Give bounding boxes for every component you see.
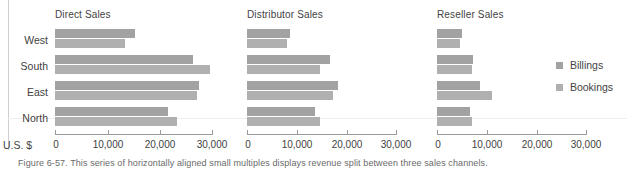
legend-swatch-billings-icon — [556, 62, 563, 69]
category-label-east: East — [0, 86, 48, 98]
bar-billings-north — [247, 107, 315, 116]
legend-swatch-bookings-icon — [556, 84, 563, 91]
bar-billings-north — [55, 107, 168, 116]
x-tick-label-20000: 20,000 — [522, 139, 553, 150]
x-tick-10000 — [297, 130, 298, 134]
plot-area-distributor-sales: 0 10,000 20,000 30,000 — [247, 28, 399, 134]
panel-title-reseller-sales: Reseller Sales — [437, 9, 504, 20]
category-label-south: South — [0, 60, 48, 72]
x-tick-label-20000: 20,000 — [332, 139, 363, 150]
bar-group-west — [55, 28, 215, 54]
legend-item-bookings[interactable]: Bookings — [556, 80, 613, 94]
x-tick-20000 — [537, 130, 538, 134]
x-tick-label-0: 0 — [245, 139, 251, 150]
bar-group-south — [247, 54, 399, 80]
x-tick-label-30000: 30,000 — [571, 139, 602, 150]
bar-bookings-east — [247, 91, 333, 100]
chart-legend: Billings Bookings — [556, 58, 613, 102]
x-tick-label-0: 0 — [53, 139, 59, 150]
bar-billings-west — [55, 29, 135, 38]
legend-item-billings[interactable]: Billings — [556, 58, 613, 72]
small-multiples-figure: West South East North U.S. $ Direct Sale… — [0, 0, 627, 150]
bar-group-north — [55, 106, 215, 132]
bar-bookings-west — [55, 39, 125, 48]
bar-billings-north — [437, 107, 470, 116]
bar-group-north — [247, 106, 399, 132]
bar-billings-east — [247, 81, 338, 90]
x-tick-20000 — [347, 130, 348, 134]
panel-title-distributor-sales: Distributor Sales — [247, 9, 323, 20]
bar-bookings-south — [55, 65, 210, 74]
bar-group-west — [437, 28, 589, 54]
bar-bookings-west — [247, 39, 287, 48]
bar-group-west — [247, 28, 399, 54]
bar-group-east — [247, 80, 399, 106]
x-tick-20000 — [160, 130, 161, 134]
legend-label-billings: Billings — [570, 59, 603, 71]
x-tick-label-30000: 30,000 — [197, 139, 228, 150]
bar-billings-west — [437, 29, 462, 38]
bar-billings-south — [55, 55, 193, 64]
bar-bookings-south — [437, 65, 472, 74]
bar-billings-west — [247, 29, 290, 38]
legend-label-bookings: Bookings — [570, 81, 613, 93]
bar-billings-south — [247, 55, 330, 64]
bar-bookings-east — [55, 91, 197, 100]
panel-title-direct-sales: Direct Sales — [55, 9, 111, 20]
x-tick-label-0: 0 — [435, 139, 441, 150]
bar-group-east — [55, 80, 215, 106]
bar-bookings-north — [247, 117, 320, 126]
x-tick-label-10000: 10,000 — [282, 139, 313, 150]
bar-bookings-north — [437, 117, 472, 126]
bar-bookings-north — [55, 117, 177, 126]
x-tick-10000 — [108, 130, 109, 134]
x-tick-label-10000: 10,000 — [93, 139, 124, 150]
panel-direct-sales: Direct Sales — [55, 0, 230, 150]
x-tick-label-20000: 20,000 — [145, 139, 176, 150]
bar-group-north — [437, 106, 589, 132]
category-label-west: West — [0, 34, 48, 46]
bar-bookings-west — [437, 39, 460, 48]
bar-group-south — [55, 54, 215, 80]
bar-billings-east — [437, 81, 480, 90]
figure-caption: Figure 6-57. This series of horizontally… — [18, 158, 618, 168]
panel-distributor-sales: Distributor Sales — [247, 0, 422, 150]
bar-billings-east — [55, 81, 199, 90]
unit-label: U.S. $ — [3, 139, 32, 151]
x-tick-10000 — [487, 130, 488, 134]
x-tick-label-10000: 10,000 — [472, 139, 503, 150]
category-label-north: North — [0, 112, 48, 124]
bar-bookings-east — [437, 91, 492, 100]
bar-bookings-south — [247, 65, 320, 74]
bar-billings-south — [437, 55, 473, 64]
plot-area-direct-sales: 0 10,000 20,000 30,000 — [55, 28, 215, 134]
x-tick-label-30000: 30,000 — [381, 139, 412, 150]
